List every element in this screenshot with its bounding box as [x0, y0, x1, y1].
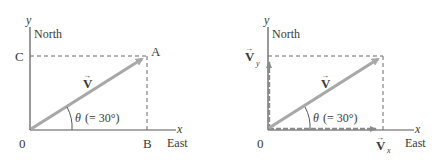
- point-a-label: A: [151, 44, 161, 59]
- origin-label: 0: [19, 136, 26, 151]
- north-label: North: [272, 27, 300, 41]
- angle-value: (= 30°): [323, 111, 358, 125]
- point-b-label: B: [143, 136, 152, 151]
- vx-subscript: x: [386, 146, 391, 155]
- angle-symbol: θ: [313, 111, 319, 125]
- vector-arrow-glyph: →: [83, 71, 91, 80]
- x-axis-label: x: [414, 122, 421, 136]
- angle-arc: [305, 107, 310, 130]
- vy-arrow-glyph: →: [245, 44, 253, 53]
- left-panel: y North C A V → θ (= 30°) x 0 B East: [15, 13, 188, 151]
- north-label: North: [34, 27, 62, 41]
- vy-subscript: y: [255, 59, 260, 68]
- east-label: East: [405, 136, 426, 150]
- vector-components-diagram: y North C A V → θ (= 30°) x 0 B East y N…: [0, 0, 441, 160]
- angle-value: (= 30°): [85, 111, 120, 125]
- angle-arc: [67, 107, 72, 130]
- east-label: East: [167, 136, 188, 150]
- point-c-label: C: [15, 49, 24, 64]
- right-panel: y North V → y V → θ (= 30°) x 0 V → x Ea…: [245, 13, 426, 155]
- y-axis-label: y: [25, 13, 32, 27]
- x-axis-label: x: [176, 122, 183, 136]
- vx-arrow-glyph: →: [376, 133, 384, 142]
- vector-arrow-glyph: →: [321, 71, 329, 80]
- angle-symbol: θ: [75, 111, 81, 125]
- origin-label: 0: [257, 136, 264, 151]
- y-axis-label: y: [263, 13, 270, 27]
